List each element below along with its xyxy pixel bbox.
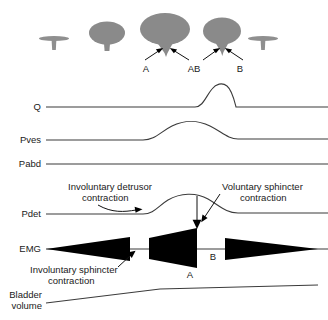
annotation-volsph-line1: Voluntary sphincter (222, 181, 303, 192)
emg-burst-right (225, 238, 318, 260)
bladder-marker-a: A (143, 63, 150, 74)
channel-label-volume-line1: Bladder (9, 289, 42, 300)
channel-label-emg: EMG (19, 243, 41, 254)
bladder-marker-ab: AB (188, 63, 201, 74)
emg-marker-b: B (210, 251, 216, 262)
annotation-detrusor-line2: contraction (82, 192, 128, 203)
channel-label-q: Q (34, 101, 41, 112)
channel-label-pves: Pves (20, 134, 41, 145)
annotation-involsph-line1: Involuntary sphincter (30, 264, 118, 275)
diagram-canvas: A AB B Q Pves Pabd Pdet Involuntary detr… (0, 0, 328, 320)
emptying-bladder-icon (203, 18, 241, 57)
voluntary-sphincter-down-arrow (193, 196, 202, 229)
channel-q: Q (34, 84, 328, 112)
empty-bladder-left-icon (39, 36, 69, 50)
channel-label-volume-line2: volume (11, 300, 42, 311)
annotation-volsph-line2: contraction (240, 192, 286, 203)
trace-q (46, 84, 328, 107)
bladder-pointer-arrows (145, 48, 243, 60)
empty-bladder-right-icon (248, 36, 278, 50)
annotation-involsph-line2: contraction (48, 275, 94, 286)
trace-pves (46, 122, 328, 141)
annotation-detrusor-line1: Involuntary detrusor (68, 181, 152, 192)
channel-pves: Pves (20, 122, 328, 146)
annotation-voluntary-sphincter: Voluntary sphincter contraction (201, 181, 303, 222)
annotation-involuntary-detrusor: Involuntary detrusor contraction (68, 181, 152, 213)
channel-label-pdet: Pdet (21, 208, 41, 219)
full-bladder-icon (140, 13, 190, 57)
emg-burst-middle (149, 228, 197, 268)
filling-bladder-icon (89, 22, 125, 52)
emg-marker-a: A (187, 269, 194, 280)
channel-pabd: Pabd (19, 158, 328, 169)
channel-label-pabd: Pabd (19, 158, 41, 169)
channel-bladder-volume: Bladder volume (9, 285, 318, 311)
trace-bladder-volume (46, 285, 318, 303)
bladder-icon-row: A AB B (39, 13, 278, 74)
emg-burst-left (46, 237, 130, 261)
urodynamics-figure: A AB B Q Pves Pabd Pdet Involuntary detr… (0, 0, 328, 320)
bladder-marker-b: B (237, 63, 243, 74)
